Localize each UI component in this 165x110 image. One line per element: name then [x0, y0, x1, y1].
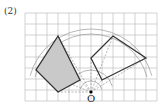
shaded-quadrilateral [36, 36, 80, 92]
origin-label: O [87, 93, 95, 104]
rotation-diagram [0, 0, 165, 110]
